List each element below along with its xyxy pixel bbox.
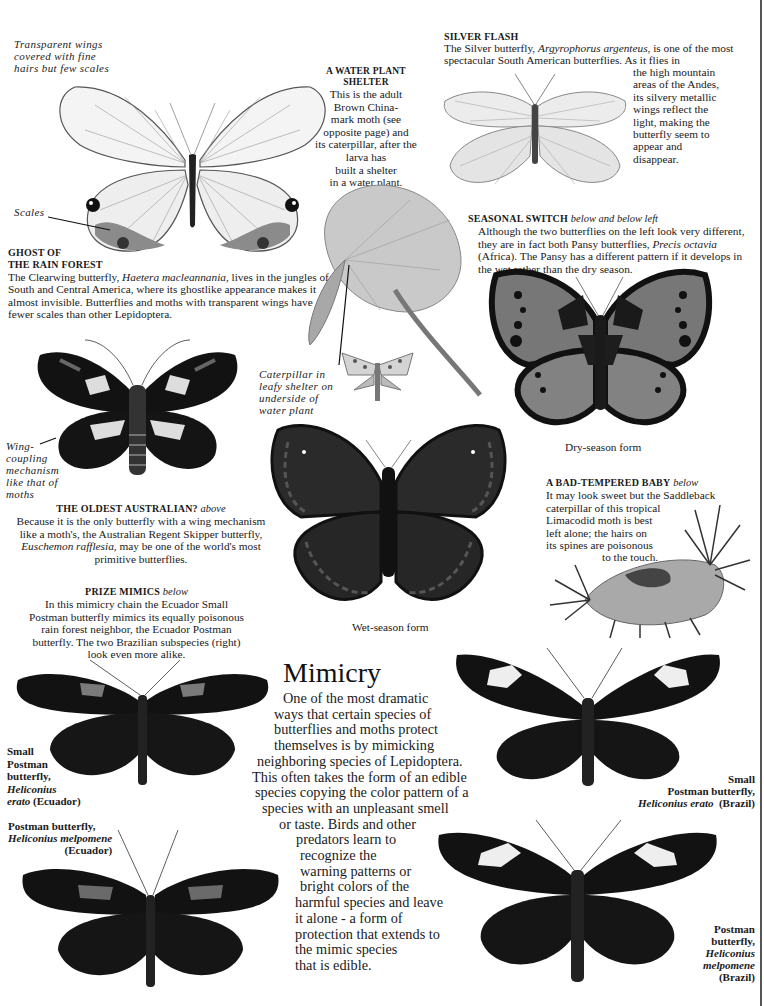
water-plant-block: A WATER PLANT SHELTER This is the adult … (292, 66, 440, 189)
oldest-australian-body: Because it is the only butterfly with a … (10, 515, 272, 565)
silver-flash-body: The Silver butterfly, Argyrophorus argen… (444, 42, 756, 67)
silver-flash-body-continued: the high mountain areas of the Andes, it… (633, 66, 758, 165)
intro-line: species copying the color pattern of a (255, 785, 462, 801)
intro-line: or taste. Birds and other (262, 817, 462, 833)
page-title: Mimicry (283, 658, 381, 688)
intro-line: neighboring species of Lepidoptera. (257, 754, 462, 770)
saddleback-caterpillar-image (545, 490, 755, 640)
intro-line: species with an unpleasant smell (262, 801, 462, 817)
intro-line: the mimic species (262, 942, 462, 958)
small-postman-ecuador-label: Small Postman butterfly, Heliconius erat… (7, 745, 81, 808)
intro-line: that is edible. (262, 958, 462, 974)
body-text: may be one of the world's most primitive… (95, 540, 261, 564)
body-line: its caterpillar, after the (292, 138, 440, 151)
body-line: This is the adult (292, 88, 440, 101)
dry-season-caption: Dry-season form (565, 441, 641, 453)
seasonal-switch-heading: SEASONAL SWITCH (468, 213, 568, 224)
heading-note: below and below left (571, 213, 658, 224)
body-line: mark moth (see (292, 113, 440, 126)
heading-line: THE RAIN FOREST (8, 259, 103, 271)
body-text: Because it is the only butterfly with a … (17, 515, 266, 539)
mimicry-intro: One of the most dramatic ways that certa… (262, 691, 462, 974)
heading-note: below (673, 477, 698, 488)
heading-line: GHOST OF (8, 247, 103, 259)
dry-season-pansy-image (488, 265, 713, 435)
wet-season-caption: Wet-season form (352, 621, 429, 633)
region-label: (Ecuador) (33, 795, 81, 807)
intro-line: ways that certain species of (262, 707, 462, 723)
label-line: Small (600, 773, 755, 785)
ghost-heading: GHOST OF THE RAIN FOREST (8, 247, 103, 271)
ghost-body: The Clearwing butterfly, Haetera maclean… (8, 271, 333, 321)
china-mark-moth-image (340, 345, 415, 405)
intro-line: harmful species and leave (262, 895, 462, 911)
small-postman-brazil-image (452, 640, 724, 790)
page-edge (760, 0, 762, 1006)
heading-line: A WATER PLANT (292, 66, 440, 77)
intro-line: bright colors of the (262, 879, 462, 895)
label-line: Postman (660, 923, 755, 935)
intro-line: One of the most dramatic (262, 691, 462, 707)
intro-line: it alone - a form of (262, 911, 462, 927)
label-line: Small (7, 745, 81, 758)
region-label: (Brazil) (719, 797, 755, 809)
body-line: Postman butterfly mimics its equally poi… (14, 611, 259, 623)
body-line: opposite page) and (292, 126, 440, 139)
water-plant-heading: A WATER PLANT SHELTER (292, 66, 440, 88)
intro-line: warning patterns or (262, 864, 462, 880)
annotation-transparent-wings: Transparent wings covered with fine hair… (14, 38, 144, 74)
species-name: Precis octavia (652, 238, 717, 250)
annotation-line: coupling (6, 452, 86, 464)
species-name: Haetera macleannania, (122, 271, 229, 283)
label-line: butterfly, (660, 935, 755, 947)
body-line: appear and (633, 140, 758, 152)
intro-line: themselves is by mimicking (262, 738, 462, 754)
body-line: Brown China- (292, 101, 440, 114)
body-line: built a shelter (292, 164, 440, 177)
body-line: light, making the (633, 116, 758, 128)
postman-ecuador-image (18, 825, 283, 990)
species-name: Heliconius erato (638, 797, 713, 809)
body-text: The Silver butterfly, (444, 42, 538, 54)
intro-line: predators learn to (262, 832, 462, 848)
postman-brazil-label: Postman butterfly, Heliconius melpomene … (660, 923, 755, 983)
species-name: Heliconius (7, 783, 81, 796)
label-line: Postman butterfly, (600, 785, 755, 797)
intro-line: butterflies and moths protect (262, 722, 462, 738)
label-line: butterfly, (7, 770, 81, 783)
body-line: areas of the Andes, (633, 78, 758, 90)
body-text: The Clearwing butterfly, (8, 271, 122, 283)
heading-note: above (201, 503, 226, 514)
water-plant-body: This is the adult Brown China- mark moth… (292, 88, 440, 189)
scales-pointer-line (48, 215, 118, 235)
intro-line: protection that extends to (262, 927, 462, 943)
body-line: butterfly seem to (633, 128, 758, 140)
heading-line: SHELTER (292, 77, 440, 88)
annotation-line: Transparent wings (14, 38, 144, 50)
annotation-line: covered with fine (14, 50, 144, 62)
body-line: In this mimicry chain the Ecuador Small (14, 598, 259, 610)
region-label: (Brazil) (660, 971, 755, 983)
annotation-line: moths (6, 488, 86, 500)
body-line: butterfly. The two Brazilian subspecies … (14, 636, 259, 648)
heading-note: below (163, 586, 188, 597)
body-line: disappear. (633, 153, 758, 165)
wing-coupling-pointer-line (40, 436, 60, 446)
oldest-australian-block: THE OLDEST AUSTRALIAN? above Because it … (10, 502, 272, 565)
body-line: its silvery metallic (633, 91, 758, 103)
species-name: Argyrophorus argenteus, (538, 42, 650, 54)
annotation-line: like that of (6, 476, 86, 488)
species-name: erato (7, 795, 30, 807)
body-line: wings reflect the (633, 103, 758, 115)
body-line: larva has (292, 151, 440, 164)
prize-mimics-heading: PRIZE MIMICS (85, 586, 160, 597)
small-postman-brazil-label: Small Postman butterfly, Heliconius erat… (600, 773, 755, 809)
species-name: Euschemon rafflesia, (21, 540, 116, 552)
body-line: rain forest neighbor, the Ecuador Postma… (14, 623, 259, 635)
species-name: melpomene (660, 959, 755, 971)
species-name: Heliconius (660, 947, 755, 959)
body-line: the high mountain (633, 66, 758, 78)
wing-coupling-annotation: Wing- coupling mechanism like that of mo… (6, 440, 86, 500)
oldest-australian-heading: THE OLDEST AUSTRALIAN? (56, 503, 197, 514)
bad-tempered-heading: A BAD-TEMPERED BABY (546, 477, 670, 488)
